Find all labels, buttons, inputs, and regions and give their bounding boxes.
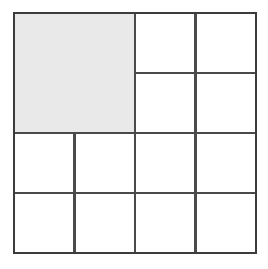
cell-r1c4	[196, 13, 257, 73]
cell-r3c3	[135, 133, 196, 193]
figure-container	[0, 0, 268, 269]
cell-r3c2	[75, 133, 136, 193]
cell-r2c3	[135, 73, 196, 133]
cell-r3c4	[196, 133, 257, 193]
cell-r1c3	[135, 13, 196, 73]
cell-r4c4	[196, 193, 257, 253]
cell-r3c1	[14, 133, 75, 193]
cell-r4c1	[14, 193, 75, 253]
cell-r2c4	[196, 73, 257, 133]
shaded-large-square	[14, 13, 135, 133]
cell-layer	[14, 13, 256, 253]
cell-r4c3	[135, 193, 196, 253]
square-grid-diagram	[0, 0, 268, 269]
cell-r4c2	[75, 193, 136, 253]
